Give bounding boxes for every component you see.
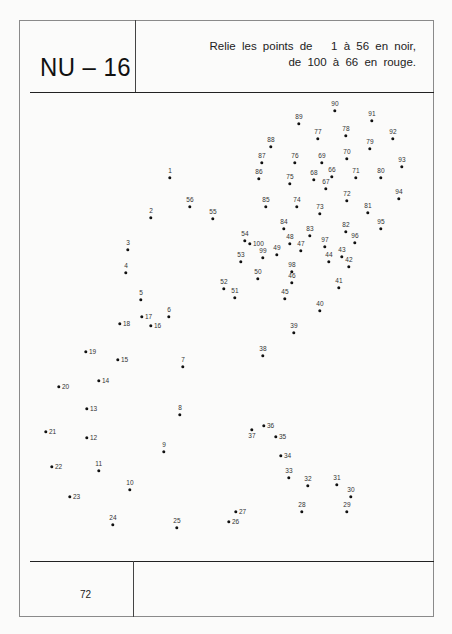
puzzle-dot bbox=[68, 495, 71, 498]
puzzle-dot bbox=[391, 137, 394, 140]
puzzle-dot-label: 82 bbox=[342, 222, 349, 229]
puzzle-dot-label: 28 bbox=[298, 502, 305, 509]
puzzle-dot-label: 88 bbox=[267, 137, 274, 144]
puzzle-dot-label: 81 bbox=[364, 203, 371, 210]
puzzle-dot bbox=[168, 176, 171, 179]
puzzle-dot bbox=[397, 197, 400, 200]
puzzle-dot bbox=[50, 465, 53, 468]
puzzle-dot-label: 90 bbox=[331, 101, 338, 108]
puzzle-dot-label: 50 bbox=[254, 269, 261, 276]
puzzle-dot-label: 38 bbox=[259, 346, 266, 353]
puzzle-dot-label: 99 bbox=[259, 248, 266, 255]
puzzle-dot-label: 95 bbox=[377, 219, 384, 226]
footer-rule bbox=[30, 561, 434, 562]
puzzle-dot-label: 7 bbox=[181, 357, 185, 364]
puzzle-dot-label: 53 bbox=[237, 252, 244, 259]
puzzle-dot-label: 45 bbox=[281, 289, 288, 296]
puzzle-dot bbox=[116, 358, 119, 361]
puzzle-dot-label: 41 bbox=[335, 278, 342, 285]
puzzle-dot bbox=[97, 379, 100, 382]
puzzle-dot bbox=[126, 248, 129, 251]
puzzle-dot bbox=[324, 187, 327, 190]
puzzle-dot-label: 24 bbox=[109, 515, 116, 522]
puzzle-dot-label: 89 bbox=[295, 114, 302, 121]
puzzle-dot bbox=[345, 157, 348, 160]
puzzle-dot-label: 55 bbox=[209, 209, 216, 216]
puzzle-dot bbox=[330, 175, 333, 178]
puzzle-dot-label: 9 bbox=[162, 442, 166, 449]
puzzle-dot bbox=[175, 526, 178, 529]
puzzle-dot bbox=[260, 161, 263, 164]
puzzle-dot bbox=[316, 137, 319, 140]
puzzle-dot bbox=[288, 242, 291, 245]
puzzle-dot-label: 44 bbox=[325, 252, 332, 259]
puzzle-dot bbox=[318, 212, 321, 215]
puzzle-dot bbox=[97, 469, 100, 472]
puzzle-dot-label: 94 bbox=[395, 189, 402, 196]
puzzle-dot bbox=[288, 182, 291, 185]
puzzle-dot bbox=[295, 205, 298, 208]
puzzle-dot-label: 91 bbox=[368, 111, 375, 118]
puzzle-dot-label: 84 bbox=[280, 219, 287, 226]
puzzle-dot bbox=[290, 281, 293, 284]
puzzle-dot bbox=[257, 177, 260, 180]
puzzle-dot-label: 2 bbox=[149, 208, 153, 215]
puzzle-dot bbox=[243, 239, 246, 242]
puzzle-dot bbox=[335, 483, 338, 486]
puzzle-dot bbox=[292, 331, 295, 334]
puzzle-dot-label: 4 bbox=[124, 263, 128, 270]
puzzle-dot bbox=[318, 309, 321, 312]
dot-to-dot-puzzle: 1234567891011121314151617181920212223242… bbox=[0, 0, 452, 634]
puzzle-dot-label: 97 bbox=[321, 237, 328, 244]
puzzle-dot bbox=[340, 255, 343, 258]
puzzle-dot bbox=[261, 354, 264, 357]
puzzle-dot-label: 48 bbox=[286, 234, 293, 241]
puzzle-dot-label: 70 bbox=[343, 149, 350, 156]
puzzle-dot-label: 92 bbox=[389, 129, 396, 136]
puzzle-dot-label: 32 bbox=[304, 476, 311, 483]
puzzle-dot bbox=[211, 217, 214, 220]
puzzle-dot-label: 33 bbox=[285, 468, 292, 475]
puzzle-dot bbox=[178, 413, 181, 416]
puzzle-dot-label: 72 bbox=[343, 191, 350, 198]
puzzle-dot-label: 85 bbox=[262, 197, 269, 204]
puzzle-dot bbox=[149, 324, 152, 327]
puzzle-dot-label: 14 bbox=[102, 378, 109, 385]
puzzle-dot bbox=[162, 450, 165, 453]
puzzle-dot-label: 71 bbox=[352, 168, 359, 175]
puzzle-dot-label: 73 bbox=[316, 204, 323, 211]
puzzle-dot-label: 76 bbox=[291, 153, 298, 160]
puzzle-dot bbox=[283, 297, 286, 300]
puzzle-dot bbox=[366, 211, 369, 214]
puzzle-dot bbox=[300, 510, 303, 513]
puzzle-dot bbox=[353, 241, 356, 244]
puzzle-dot bbox=[320, 161, 323, 164]
puzzle-dot-label: 21 bbox=[49, 429, 56, 436]
puzzle-dot bbox=[306, 484, 309, 487]
puzzle-dot-label: 10 bbox=[126, 480, 133, 487]
puzzle-dot bbox=[333, 109, 336, 112]
puzzle-dot-label: 1 bbox=[168, 168, 172, 175]
puzzle-dot-label: 35 bbox=[279, 434, 286, 441]
puzzle-dot-label: 68 bbox=[310, 170, 317, 177]
puzzle-dot-label: 40 bbox=[316, 301, 323, 308]
puzzle-dot-label: 25 bbox=[173, 518, 180, 525]
puzzle-dot bbox=[299, 249, 302, 252]
puzzle-dot-label: 78 bbox=[342, 126, 349, 133]
puzzle-dot-label: 66 bbox=[328, 167, 335, 174]
puzzle-dot-label: 23 bbox=[73, 494, 80, 501]
puzzle-dot-label: 29 bbox=[343, 502, 350, 509]
puzzle-dot bbox=[233, 296, 236, 299]
puzzle-dot-label: 12 bbox=[90, 435, 97, 442]
puzzle-dot bbox=[167, 315, 170, 318]
puzzle-dot bbox=[256, 277, 259, 280]
puzzle-dot-label: 67 bbox=[322, 179, 329, 186]
puzzle-dot-label: 69 bbox=[318, 153, 325, 160]
puzzle-dot bbox=[349, 495, 352, 498]
puzzle-dot-label: 11 bbox=[95, 461, 102, 468]
puzzle-dot bbox=[368, 147, 371, 150]
puzzle-dot-label: 47 bbox=[297, 241, 304, 248]
puzzle-dot bbox=[239, 260, 242, 263]
puzzle-dot-label: 56 bbox=[186, 197, 193, 204]
puzzle-dot bbox=[327, 260, 330, 263]
